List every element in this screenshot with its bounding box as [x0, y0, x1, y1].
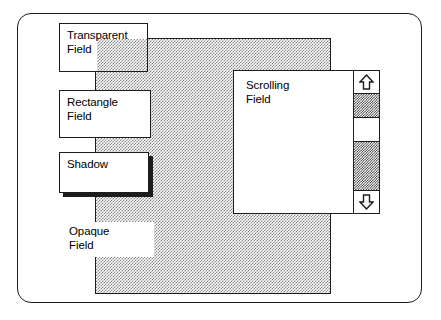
- scroll-up-arrow-button[interactable]: [354, 71, 379, 94]
- scroll-up-arrow-icon: [359, 74, 374, 90]
- rectangle-field[interactable]: Rectangle Field: [59, 90, 151, 138]
- scrolling-field[interactable]: Scrolling Field: [233, 70, 361, 214]
- transparent-field-label: Transparent Field: [67, 29, 140, 56]
- shadow-field[interactable]: Shadow: [59, 152, 149, 193]
- scroll-down-arrow-button[interactable]: [354, 190, 379, 213]
- scroll-track-upper[interactable]: [354, 94, 379, 117]
- vertical-scrollbar[interactable]: [353, 70, 380, 214]
- scrolling-field-label: Scrolling Field: [246, 78, 360, 106]
- shadow-field-label: Shadow: [67, 158, 141, 172]
- rectangle-field-label: Rectangle Field: [67, 96, 143, 123]
- opaque-field-label: Opaque Field: [69, 225, 147, 252]
- scroll-track-lower[interactable]: [354, 142, 379, 190]
- diagram-canvas: Transparent Field Rectangle Field Shadow…: [0, 0, 441, 320]
- scroll-thumb[interactable]: [354, 117, 379, 142]
- scroll-down-arrow-icon: [359, 194, 374, 210]
- opaque-field[interactable]: Opaque Field: [59, 222, 154, 257]
- transparent-field[interactable]: Transparent Field: [59, 23, 148, 72]
